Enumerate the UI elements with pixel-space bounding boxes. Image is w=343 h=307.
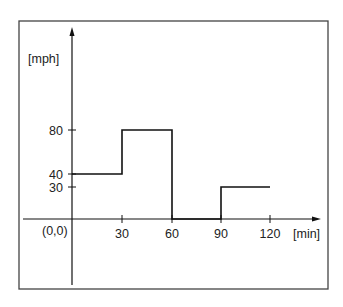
x-tick-label-60: 60 (165, 227, 179, 241)
x-tick-label-90: 90 (214, 227, 228, 241)
y-unit-label: [mph] (28, 52, 59, 66)
x-tick-label-30: 30 (115, 227, 129, 241)
x-axis-arrow-icon (312, 217, 321, 222)
x-tick-label-120: 120 (260, 227, 281, 241)
y-tick-label-80: 80 (49, 124, 63, 138)
chart-canvas: [mph] [min] (0,0) 80 40 30 30 60 90 120 (0, 0, 343, 307)
y-tick-label-30: 30 (49, 181, 63, 195)
speed-step-line (72, 130, 270, 219)
chart-frame (19, 21, 328, 289)
y-axis-arrow-icon (70, 27, 75, 36)
y-tick-label-40: 40 (49, 168, 63, 182)
origin-label: (0,0) (42, 224, 68, 238)
x-unit-label: [min] (293, 227, 320, 241)
